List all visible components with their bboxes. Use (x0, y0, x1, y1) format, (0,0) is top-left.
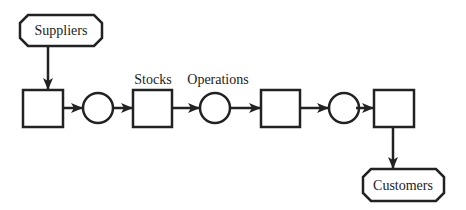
suppliers-label: Suppliers (35, 23, 88, 38)
customers-label: Customers (373, 178, 433, 193)
stocks-label: Stocks (134, 72, 171, 87)
stock-node-3 (261, 90, 300, 127)
stock-node-4 (374, 90, 414, 127)
stock-node-1 (23, 90, 63, 127)
operation-node-1 (83, 93, 113, 123)
supply-chain-diagram: Suppliers Stocks Operations Customers (0, 0, 466, 210)
operations-label: Operations (187, 72, 248, 87)
operation-node-2 (200, 93, 230, 123)
operation-node-3 (329, 93, 359, 123)
stock-node-2 (133, 90, 172, 127)
customers-terminal: Customers (363, 169, 444, 201)
suppliers-terminal: Suppliers (20, 15, 102, 46)
